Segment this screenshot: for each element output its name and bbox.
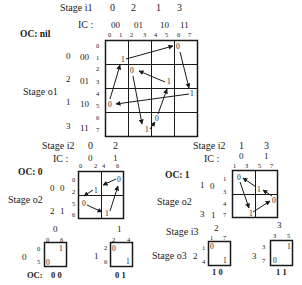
box-00 [45,243,67,267]
box-10 [209,242,231,266]
box-01 [111,243,133,267]
diagram-graphics [0,0,302,285]
box-11 [271,241,293,266]
